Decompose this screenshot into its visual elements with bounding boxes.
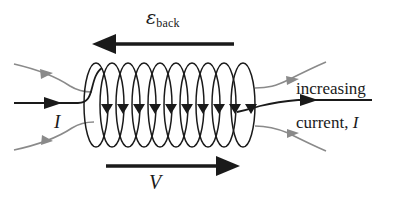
emf-symbol: ε xyxy=(146,6,156,28)
field-lines-right xyxy=(255,62,326,151)
emf-subscript: back xyxy=(156,16,179,30)
emf-arrow xyxy=(92,34,234,54)
field-lines-left xyxy=(14,64,94,150)
current-right-symbol: I xyxy=(353,113,359,132)
current-right-text: current, xyxy=(296,113,353,132)
current-left-label: I xyxy=(54,112,60,131)
current-right-label: current, I xyxy=(296,114,358,131)
increasing-label: increasing xyxy=(296,80,366,97)
coil-current-arrow-icon xyxy=(101,104,113,114)
voltage-label: V xyxy=(149,172,161,192)
lead-wire-right-path xyxy=(237,100,298,112)
coil-current-arrow-icon xyxy=(149,104,161,114)
emf-label: εback xyxy=(146,8,180,29)
voltage-arrow xyxy=(106,156,240,176)
coil-current-arrow-icon xyxy=(117,104,129,114)
coil-current-arrow-icon xyxy=(181,104,193,114)
field-arrow-left-upper-icon xyxy=(40,69,53,79)
coil-current-arrow-icon xyxy=(165,104,177,114)
diagram-canvas xyxy=(0,0,401,202)
field-arrow-left-lower-icon xyxy=(41,135,53,145)
coil-current-arrow-icon xyxy=(213,104,225,114)
voltage-arrow-head-icon xyxy=(216,156,240,176)
current-arrow-left-icon xyxy=(44,97,62,109)
emf-arrow-head-icon xyxy=(92,34,116,54)
solenoid-diagram: εback V I increasing current, I xyxy=(0,0,401,202)
field-line-left-upper xyxy=(14,64,92,92)
coil-current-arrow-icon xyxy=(133,104,145,114)
coil-current-arrow-icon xyxy=(197,104,209,114)
